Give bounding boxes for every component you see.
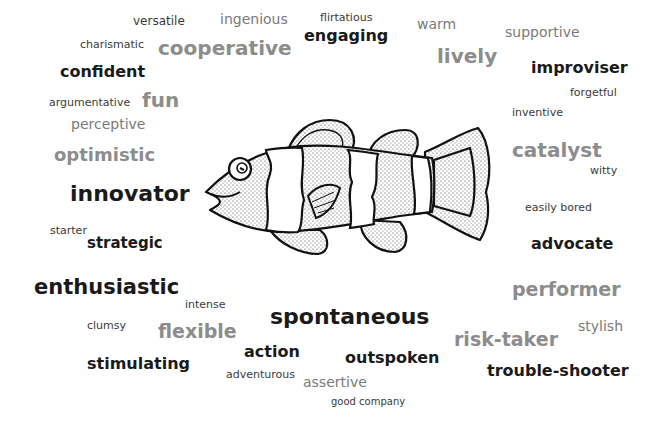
word-outspoken: outspoken	[345, 350, 439, 366]
word-supportive: supportive	[505, 25, 580, 39]
word-improviser: improviser	[531, 60, 628, 76]
word-innovator: innovator	[70, 183, 190, 205]
word-fun: fun	[142, 90, 179, 110]
word-easily-bored: easily bored	[525, 202, 592, 213]
word-charismatic: charismatic	[80, 39, 144, 50]
word-stylish: stylish	[578, 319, 623, 333]
word-performer: performer	[512, 280, 621, 299]
word-trouble-shooter: trouble-shooter	[487, 363, 629, 379]
word-perceptive: perceptive	[71, 117, 145, 131]
word-good-company: good company	[331, 397, 405, 407]
word-ingenious: ingenious	[220, 12, 288, 26]
word-witty: witty	[590, 165, 617, 176]
word-stimulating: stimulating	[87, 356, 190, 372]
word-action: action	[244, 344, 300, 360]
word-clumsy: clumsy	[87, 320, 126, 331]
word-cooperative: cooperative	[158, 38, 292, 58]
word-flexible: flexible	[158, 322, 237, 341]
word-inventive: inventive	[512, 107, 563, 118]
word-versatile: versatile	[133, 15, 185, 27]
word-strategic: strategic	[87, 236, 163, 251]
word-assertive: assertive	[303, 375, 367, 389]
clownfish-illustration	[200, 112, 500, 272]
word-lively: lively	[437, 46, 497, 66]
word-flirtatious: flirtatious	[320, 12, 372, 23]
word-adventurous: adventurous	[226, 369, 295, 380]
word-argumentative: argumentative	[49, 97, 130, 108]
word-catalyst: catalyst	[512, 140, 602, 160]
word-intense: intense	[185, 299, 226, 310]
word-warm: warm	[417, 17, 456, 31]
word-engaging: engaging	[304, 28, 388, 44]
word-optimistic: optimistic	[54, 146, 155, 164]
word-cloud-canvas: versatile ingenious flirtatious warm sup…	[0, 0, 657, 428]
word-starter: starter	[50, 225, 87, 236]
word-confident: confident	[60, 64, 145, 80]
word-spontaneous: spontaneous	[270, 306, 429, 328]
word-forgetful: forgetful	[570, 87, 617, 98]
word-risk-taker: risk-taker	[454, 330, 558, 349]
word-enthusiastic: enthusiastic	[34, 277, 179, 298]
word-advocate: advocate	[531, 236, 613, 252]
